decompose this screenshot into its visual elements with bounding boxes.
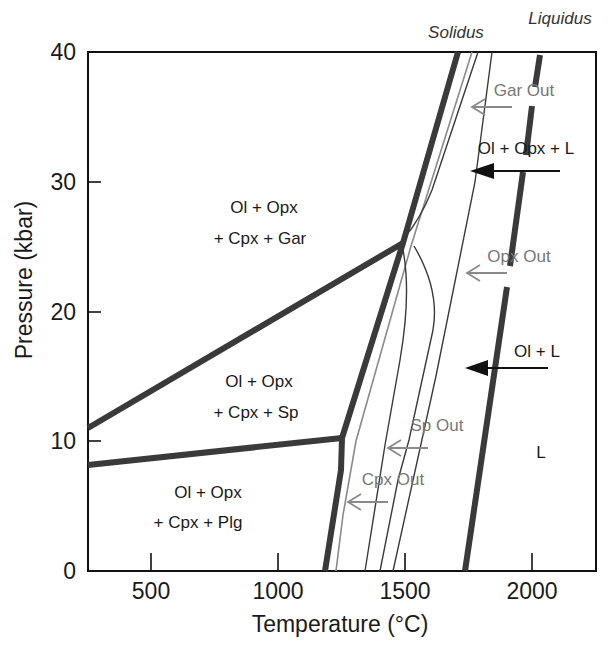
gar-out-arrow — [472, 99, 512, 115]
cpx-out-label: Cpx Out — [362, 470, 425, 489]
gar-region-label-line2: + Cpx + Gar — [214, 229, 307, 248]
ol-opx-l-arrow — [470, 163, 560, 179]
opx-out-arrow — [467, 265, 507, 281]
phase-diagram-chart: 0 10 20 30 40 500 1000 1500 2000 Tempera… — [0, 0, 610, 645]
liquid-region-label: L — [536, 443, 545, 462]
x-axis-title: Temperature (°C) — [252, 611, 429, 637]
ol-l-label: Ol + L — [514, 342, 560, 361]
plg-region-label-line1: Ol + Opx — [174, 483, 242, 502]
solidus-curve — [325, 52, 458, 571]
ol-opx-l-label: Ol + Opx + L — [478, 139, 574, 158]
y-tick-label: 10 — [50, 428, 76, 454]
y-tick-label: 30 — [50, 169, 76, 195]
y-tick-label: 40 — [50, 39, 76, 65]
x-axis — [151, 553, 532, 571]
plg-sp-boundary — [88, 438, 342, 465]
plot-frame — [88, 52, 596, 571]
y-tick-label: 0 — [63, 558, 76, 584]
gar-region-label-line1: Ol + Opx — [230, 198, 298, 217]
plg-region-label-line2: + Cpx + Plg — [154, 513, 243, 532]
gar-out-curve — [380, 52, 478, 571]
x-tick-label: 500 — [132, 578, 170, 604]
y-tick-label: 20 — [50, 299, 76, 325]
y-axis — [88, 182, 101, 441]
opx-out-label: Opx Out — [487, 247, 551, 266]
solidus-label: Solidus — [428, 23, 484, 42]
gar-out-label: Gar Out — [494, 81, 555, 100]
y-axis-title: Pressure (kbar) — [11, 201, 37, 359]
cpx-out-arrow — [348, 494, 388, 510]
x-tick-label: 1500 — [379, 578, 430, 604]
liquidus-label: Liquidus — [528, 9, 592, 28]
liquidus-curve — [465, 55, 540, 571]
sp-region-label-line2: + Cpx + Sp — [213, 403, 298, 422]
sp-out-label: Sp Out — [411, 416, 464, 435]
sp-region-label-line1: Ol + Opx — [225, 372, 293, 391]
x-tick-label: 2000 — [506, 578, 557, 604]
x-tick-label: 1000 — [252, 578, 303, 604]
ol-l-arrow — [465, 360, 548, 376]
